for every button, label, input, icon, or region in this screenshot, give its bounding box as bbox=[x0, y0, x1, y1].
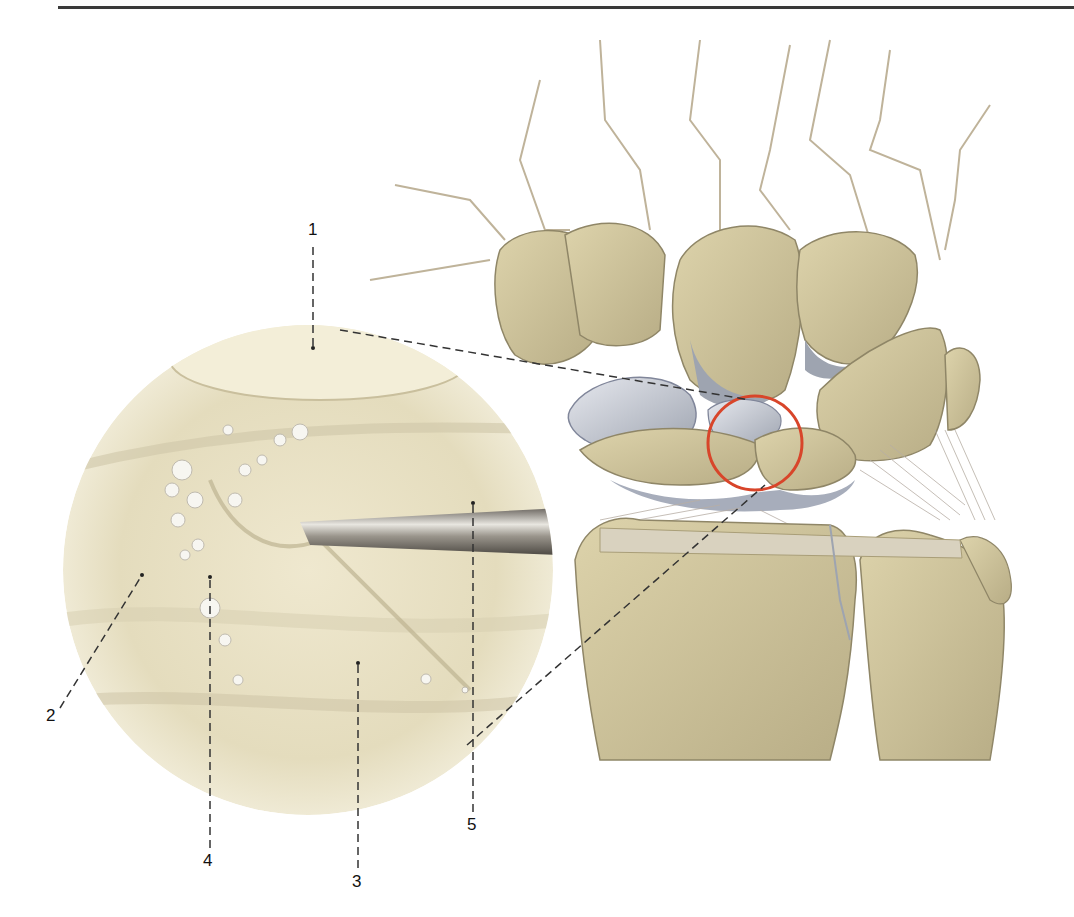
callout-4: 4 bbox=[203, 851, 212, 871]
radius-ulna bbox=[575, 518, 1011, 760]
callout-3: 3 bbox=[352, 872, 361, 892]
callout-5: 5 bbox=[467, 815, 476, 835]
callout-2: 2 bbox=[46, 706, 55, 726]
callout-1: 1 bbox=[308, 220, 317, 240]
wrist-anatomy-figure bbox=[0, 0, 1074, 917]
arthroscopic-inset bbox=[60, 320, 560, 815]
